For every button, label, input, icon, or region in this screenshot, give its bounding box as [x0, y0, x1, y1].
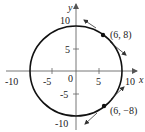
circle-diagram: y x -10 -5 0 5 10 10 5 -5 -10 (6, 8) (6,…: [0, 0, 145, 132]
x-tick-label: 10: [125, 76, 135, 87]
point-label-upper: (6, 8): [110, 29, 132, 41]
y-tick-label: -10: [55, 118, 68, 129]
y-tick-label: 5: [65, 44, 70, 55]
y-tick-label: -5: [60, 89, 68, 100]
x-tick-label: -5: [43, 76, 51, 87]
y-axis-label: y: [67, 2, 73, 13]
tangent-line-lower: [111, 87, 124, 99]
point-6-neg8: [102, 104, 106, 108]
origin-label: 0: [68, 73, 73, 84]
point-label-lower: (6, −8): [110, 105, 137, 117]
point-6-8: [101, 33, 105, 37]
x-tick-label: -10: [5, 76, 18, 87]
y-tick-label: 10: [60, 15, 70, 26]
x-tick-label: 5: [96, 76, 101, 87]
x-axis-label: x: [138, 74, 144, 85]
